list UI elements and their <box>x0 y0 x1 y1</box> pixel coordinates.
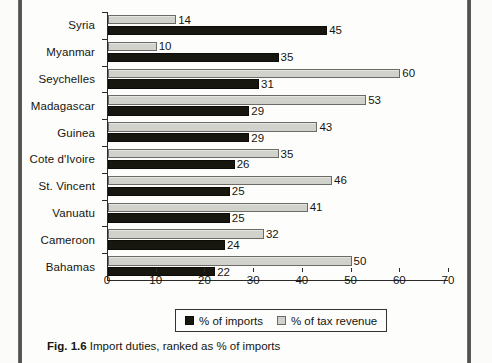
category-label: Seychelles <box>38 73 95 85</box>
chart-legend: % of imports % of tax revenue <box>175 309 387 332</box>
bar-imports: 25 <box>108 213 230 222</box>
bar-chart: Syria1445Myanmar1035Seychelles6031Madaga… <box>22 12 467 284</box>
bar-imports: 26 <box>108 160 235 169</box>
x-axis-tick <box>399 268 400 272</box>
category-label: Syria <box>68 19 95 31</box>
bar-value-label: 31 <box>261 78 274 90</box>
x-axis-tick-label: 50 <box>344 274 357 286</box>
y-axis-tick <box>102 226 107 227</box>
legend-label-tax-revenue: % of tax revenue <box>291 315 377 327</box>
bar-group: 5329 <box>108 94 467 117</box>
legend-item-imports: % of imports <box>185 315 263 327</box>
bar-value-label: 35 <box>281 51 294 63</box>
x-axis-tick <box>156 268 157 272</box>
x-axis-tick <box>204 268 205 272</box>
bar-imports: 29 <box>108 133 249 142</box>
x-axis-tick <box>107 268 108 272</box>
black-square-icon <box>185 316 194 325</box>
bar-tax-revenue: 43 <box>108 122 317 131</box>
chart-row: Madagascar5329 <box>22 92 467 119</box>
bar-imports: 35 <box>108 53 279 62</box>
x-axis-tick <box>253 268 254 272</box>
gray-square-icon <box>277 316 286 325</box>
figure-caption: Fig. 1.6 Import duties, ranked as % of i… <box>47 340 280 352</box>
bar-value-label: 32 <box>266 228 279 240</box>
category-label: Vanuatu <box>52 207 95 219</box>
bar-value-label: 43 <box>319 121 332 133</box>
bar-value-label: 26 <box>237 158 250 170</box>
bar-value-label: 29 <box>251 132 264 144</box>
page-gutter-right <box>467 0 471 363</box>
bar-value-label: 50 <box>354 255 367 267</box>
bar-imports: 25 <box>108 187 230 196</box>
bar-value-label: 60 <box>402 67 415 79</box>
bar-value-label: 25 <box>232 212 245 224</box>
y-axis-tick <box>102 12 107 13</box>
y-axis-tick <box>102 66 107 67</box>
bar-value-label: 24 <box>227 239 240 251</box>
x-axis-tick-label: 60 <box>393 274 406 286</box>
bar-imports: 45 <box>108 26 327 35</box>
category-label: Cameroon <box>41 234 96 246</box>
bar-imports: 29 <box>108 106 249 115</box>
bar-imports: 24 <box>108 240 225 249</box>
x-axis-tick-label: 30 <box>247 274 260 286</box>
chart-row: St. Vincent4625 <box>22 173 467 200</box>
bar-tax-revenue: 14 <box>108 15 176 24</box>
bar-tax-revenue: 46 <box>108 176 332 185</box>
bar-value-label: 29 <box>251 105 264 117</box>
bar-value-label: 25 <box>232 185 245 197</box>
y-axis-tick <box>102 200 107 201</box>
category-label: Madagascar <box>31 100 95 112</box>
bar-group: 1035 <box>108 41 467 64</box>
bar-group: 3224 <box>108 228 467 251</box>
chart-row: Cameroon3224 <box>22 226 467 253</box>
bar-tax-revenue: 32 <box>108 229 264 238</box>
x-axis-tick-label: 0 <box>104 274 110 286</box>
figure-page: Syria1445Myanmar1035Seychelles6031Madaga… <box>22 0 467 363</box>
bar-group: 4625 <box>108 175 467 198</box>
bar-tax-revenue: 35 <box>108 149 279 158</box>
bar-value-label: 14 <box>178 14 191 26</box>
chart-row: Cote d'Ivoire3526 <box>22 146 467 173</box>
x-axis-tick-label: 20 <box>198 274 211 286</box>
bar-imports: 31 <box>108 79 259 88</box>
x-axis-tick <box>351 268 352 272</box>
bar-group: 6031 <box>108 68 467 91</box>
x-axis-tick-label: 10 <box>149 274 162 286</box>
chart-row: Myanmar1035 <box>22 39 467 66</box>
chart-row: Seychelles6031 <box>22 66 467 93</box>
bar-group: 1445 <box>108 14 467 37</box>
y-axis-tick <box>102 39 107 40</box>
bar-tax-revenue: 10 <box>108 42 157 51</box>
bar-tax-revenue: 53 <box>108 95 366 104</box>
chart-row: Vanuatu4125 <box>22 200 467 227</box>
y-axis-tick <box>102 173 107 174</box>
bar-value-label: 10 <box>159 40 172 52</box>
x-axis-tick-label: 40 <box>295 274 308 286</box>
y-axis-tick <box>102 253 107 254</box>
bar-tax-revenue: 50 <box>108 256 352 265</box>
legend-item-tax-revenue: % of tax revenue <box>277 315 377 327</box>
bar-value-label: 53 <box>368 94 381 106</box>
bar-value-label: 35 <box>281 148 294 160</box>
figure-caption-text: Import duties, ranked as % of imports <box>90 340 280 352</box>
bar-group: 4329 <box>108 121 467 144</box>
category-label: Cote d'Ivoire <box>30 153 96 165</box>
x-axis-tick <box>302 268 303 272</box>
bar-tax-revenue: 60 <box>108 69 400 78</box>
bar-tax-revenue: 41 <box>108 203 308 212</box>
bar-value-label: 46 <box>334 174 347 186</box>
bar-group: 3526 <box>108 148 467 171</box>
chart-row: Syria1445 <box>22 12 467 39</box>
y-axis-tick <box>102 92 107 93</box>
legend-label-imports: % of imports <box>199 315 263 327</box>
x-axis: 010203040506070 <box>22 268 467 292</box>
figure-number: Fig. 1.6 <box>47 340 87 352</box>
category-label: Myanmar <box>46 46 95 58</box>
bar-group: 4125 <box>108 202 467 225</box>
x-axis-tick-label: 70 <box>442 274 455 286</box>
category-label: Guinea <box>57 127 95 139</box>
bar-value-label: 45 <box>329 24 342 36</box>
chart-row: Guinea4329 <box>22 119 467 146</box>
